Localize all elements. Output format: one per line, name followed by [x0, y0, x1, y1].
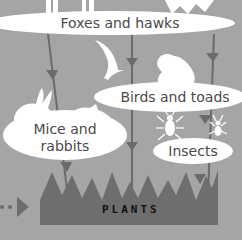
insects-label: Insects: [163, 143, 223, 159]
birds-toads-label: Birds and toads: [120, 89, 230, 105]
foxes-hawks-label: Foxes and hawks: [60, 15, 180, 31]
mice-rabbits-label-line2: rabbits: [20, 138, 110, 154]
mice-rabbits-label-line1: Mice and: [20, 121, 110, 137]
plants-label: PLANTS: [102, 203, 160, 216]
